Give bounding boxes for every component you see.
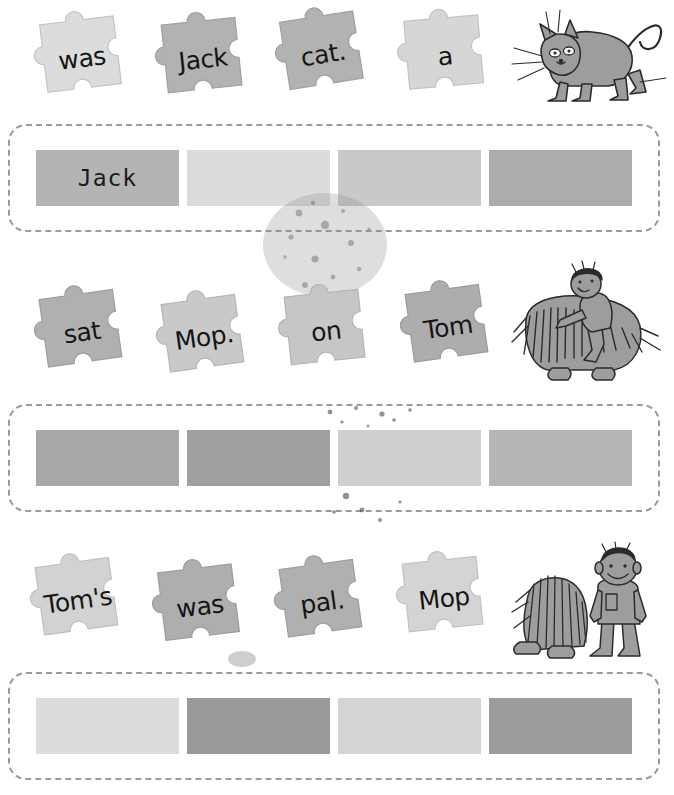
answer-slot-3-3[interactable]: [338, 698, 481, 754]
puzzle-piece-pal-3[interactable]: pal.: [268, 552, 375, 653]
dog-and-boy-illustration: [506, 546, 666, 664]
answer-slots: [10, 674, 658, 778]
answer-slot-3-1[interactable]: [36, 698, 179, 754]
puzzle-row-3: Tom's was pal. Mop: [0, 0, 674, 670]
puzzle-piece-toms-3[interactable]: Tom's: [24, 550, 131, 651]
answer-slot-3-4[interactable]: [489, 698, 632, 754]
worksheet-page: was Jack cat. a: [0, 0, 674, 795]
puzzle-piece-mop-3[interactable]: Mop: [392, 549, 497, 647]
answer-slot-3-2[interactable]: [187, 698, 330, 754]
answer-strip-3[interactable]: [8, 672, 660, 780]
puzzle-piece-was-3[interactable]: was: [147, 556, 253, 655]
